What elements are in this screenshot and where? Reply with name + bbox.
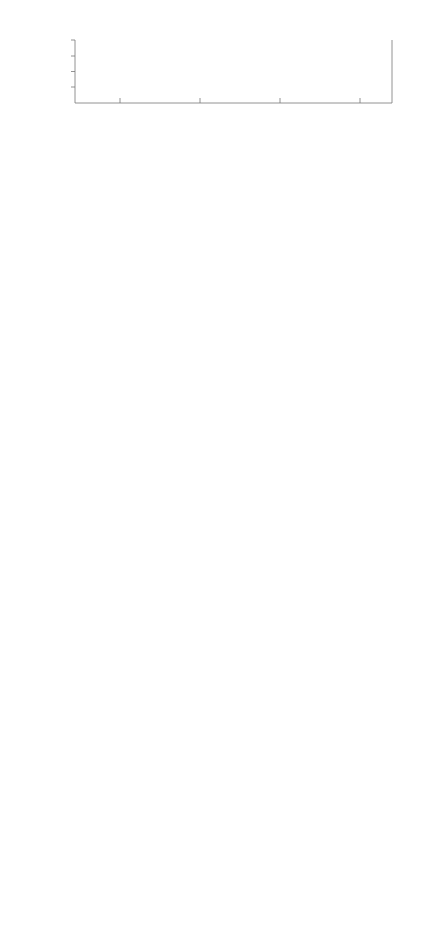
- panel-a-axes: [75, 40, 392, 103]
- paleoclimate-figure: [0, 0, 443, 939]
- panel-a: [71, 40, 392, 103]
